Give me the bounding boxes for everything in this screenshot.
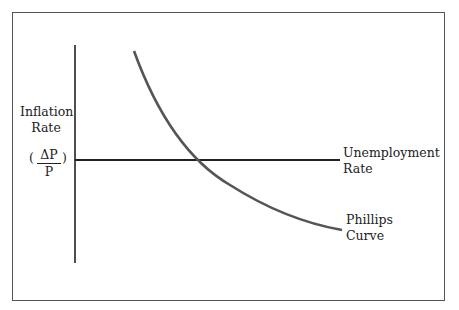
formula-open-paren: ( (29, 150, 34, 166)
y-axis-label-line1: Inflation (20, 104, 72, 120)
x-axis-label-line2: Rate (343, 161, 440, 177)
curve-label-line1: Phillips (346, 212, 393, 228)
y-axis-label: Inflation Rate (20, 104, 72, 136)
curve-label-line2: Curve (346, 228, 393, 244)
phillips-curve (134, 51, 342, 230)
formula-close-paren: ) (62, 150, 67, 166)
y-axis-formula: ( ΔP P ) (29, 148, 69, 180)
x-axis-label: Unemployment Rate (343, 145, 440, 177)
formula-numerator: ΔP (37, 147, 61, 164)
x-axis-label-line1: Unemployment (343, 145, 440, 161)
curve-label: Phillips Curve (346, 212, 393, 244)
y-axis-label-line2: Rate (20, 120, 72, 136)
formula-denominator: P (37, 164, 61, 180)
